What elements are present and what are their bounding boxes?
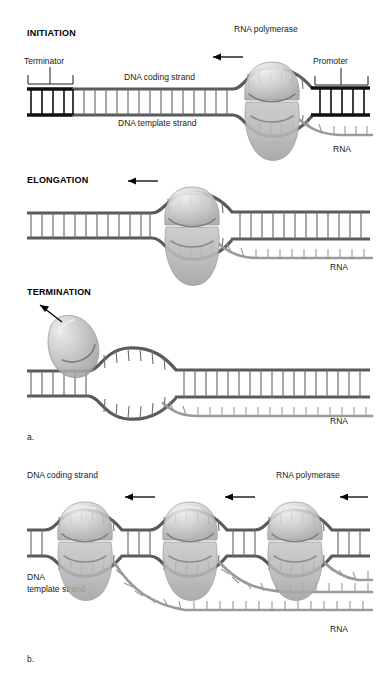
label-rna-termination: RNA [330,416,348,426]
label-rna-initiation: RNA [333,144,351,154]
rna-polymerase-b-3 [268,502,323,601]
figure-transcription-diagram: INITIATION Terminator Promoter RNA polym… [0,0,392,676]
panel-label-a: a. [27,432,34,442]
diagram-canvas: INITIATION Terminator Promoter RNA polym… [0,0,392,676]
stage-title-initiation: INITIATION [27,28,76,38]
label-dna-template-strand: DNA template strand [118,118,197,128]
label-rna-elongation: RNA [330,262,348,272]
rna-polymerase-b-2 [163,502,218,601]
label-rna-polymerase: RNA polymerase [234,24,298,34]
rna-polymerase-elongation [165,187,220,286]
label-b-dna-coding-strand: DNA coding strand [27,470,98,480]
rna-polymerase-initiation [245,62,300,161]
rna-polymerase-b-1 [58,502,113,601]
label-promoter: Promoter [313,56,348,66]
label-b-rna: RNA [330,624,348,634]
label-terminator: Terminator [24,56,64,66]
label-dna-coding-strand: DNA coding strand [124,72,195,82]
label-b-dna-template-strand-line1: DNA [27,572,45,582]
label-b-rna-polymerase: RNA polymerase [276,470,340,480]
stage-title-termination: TERMINATION [27,287,91,297]
panel-label-b: b. [27,654,34,664]
stage-title-elongation: ELONGATION [27,175,88,185]
